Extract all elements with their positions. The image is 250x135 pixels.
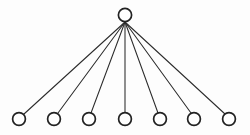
- node-leaf-7[interactable]: [223, 113, 236, 126]
- edges-layer: [24, 22, 225, 114]
- edge-root-leaf-7[interactable]: [125, 22, 225, 114]
- edge-root-leaf-5[interactable]: [125, 22, 158, 113]
- diagram-canvas: [0, 0, 250, 135]
- edge-root-leaf-1[interactable]: [24, 22, 125, 114]
- node-leaf-4[interactable]: [119, 113, 132, 126]
- node-leaf-3[interactable]: [83, 113, 96, 126]
- edge-root-leaf-2[interactable]: [58, 22, 125, 113]
- edge-root-leaf-6[interactable]: [125, 22, 191, 113]
- star-graph: [0, 0, 250, 135]
- node-leaf-6[interactable]: [188, 113, 201, 126]
- node-leaf-5[interactable]: [154, 113, 167, 126]
- node-leaf-1[interactable]: [13, 113, 26, 126]
- node-root[interactable]: [118, 8, 131, 21]
- edge-root-leaf-3[interactable]: [91, 22, 125, 113]
- node-leaf-2[interactable]: [48, 113, 61, 126]
